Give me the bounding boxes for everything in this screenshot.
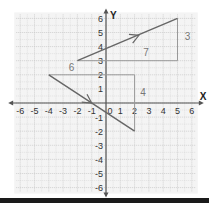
x-tick-label: -2	[73, 106, 81, 116]
x-tick-label: 3	[146, 106, 151, 116]
y-tick-label: -1	[95, 113, 103, 123]
x-tick-label: -3	[59, 106, 67, 116]
rise-label-a: 3	[185, 31, 191, 42]
x-tick-label: 5	[175, 106, 180, 116]
run-label-a: 7	[143, 47, 149, 58]
y-axis-arrow-down-icon	[104, 193, 109, 198]
y-tick-label: -5	[95, 169, 103, 179]
x-tick-label: -6	[16, 106, 24, 116]
run-label-b: 6	[69, 62, 75, 73]
x-axis-label: X	[200, 91, 207, 102]
y-tick-label: 1	[98, 84, 103, 94]
y-axis-label: Y	[110, 10, 117, 21]
coordinate-plane: -6-5-4-3-2-10123456654321-1-2-3-4-5-6 X …	[0, 0, 209, 203]
x-tick-label: -4	[45, 106, 53, 116]
y-tick-label: -2	[95, 127, 103, 137]
y-axis-arrow-up-icon	[104, 8, 109, 13]
y-tick-label: -6	[95, 183, 103, 193]
x-tick-label: 6	[189, 106, 194, 116]
y-tick-label: -3	[95, 141, 103, 151]
y-tick-label: -4	[95, 155, 103, 165]
x-tick-label: 1	[118, 106, 123, 116]
y-tick-label: 5	[98, 28, 103, 38]
bottom-border	[0, 198, 209, 203]
x-axis-arrow-left-icon	[8, 101, 13, 106]
y-tick-label: 6	[98, 14, 103, 24]
x-tick-label: 4	[161, 106, 166, 116]
x-tick-label: -5	[30, 106, 38, 116]
rise-label-b: 4	[140, 87, 146, 98]
